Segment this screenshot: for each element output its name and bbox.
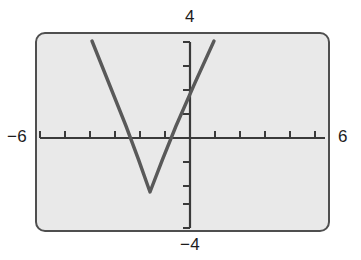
axis-label-x-min: −6 — [7, 128, 27, 145]
axis-label-x-max: 6 — [338, 128, 348, 145]
plot-area-background — [36, 33, 329, 231]
axis-label-y-max: 4 — [10, 8, 361, 25]
axis-label-y-min: −4 — [10, 236, 361, 253]
graph-figure: 4 −4 −6 6 — [0, 0, 361, 260]
coordinate-plane — [0, 0, 361, 260]
